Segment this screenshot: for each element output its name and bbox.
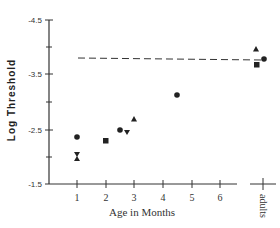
triangle-down-marker — [74, 152, 80, 157]
x-axis-label: Age in Months — [109, 206, 175, 218]
y-axis-label: Log Threshold — [6, 59, 17, 141]
x-tick-label: 5 — [190, 192, 195, 203]
x-tick-label: 1 — [75, 192, 80, 203]
y-tick-label: -1.5 — [28, 180, 42, 189]
triangle-up-marker — [253, 46, 259, 52]
circle-marker — [117, 127, 123, 133]
square-marker — [254, 62, 260, 68]
circle-marker — [174, 92, 180, 98]
y-tick-label: -4.5 — [28, 16, 42, 25]
triangle-down-marker — [124, 130, 130, 135]
x-tick-label: 2 — [104, 192, 109, 203]
x-tick-label-adults: adults — [258, 194, 269, 218]
x-tick-label: 6 — [218, 192, 223, 203]
circle-marker — [74, 134, 80, 140]
square-marker — [103, 138, 109, 144]
chart: -4.5 -3.5 -2.5 -1.5 Log Threshold 1 2 3 … — [0, 0, 280, 228]
y-tick-label: -2.5 — [28, 126, 42, 135]
y-tick-label: -3.5 — [28, 70, 42, 79]
circle-marker — [261, 56, 267, 62]
adult-reference-line — [78, 58, 262, 60]
x-tick-label: 4 — [161, 192, 166, 203]
x-tick-label: 3 — [132, 192, 137, 203]
data-points — [74, 46, 267, 161]
triangle-up-marker — [131, 116, 137, 122]
